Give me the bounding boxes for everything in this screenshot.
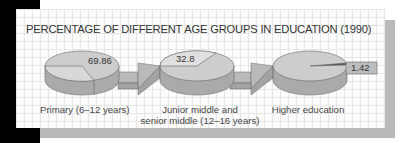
- arrow-2: [230, 63, 273, 95]
- pie-higher: [273, 51, 377, 95]
- arrow-1: [118, 63, 160, 95]
- label-higher: Higher education: [268, 104, 348, 115]
- value-primary: 69.86: [88, 55, 112, 66]
- label-primary: Primary (6–12 years): [40, 104, 128, 115]
- value-higher: 1.42: [351, 62, 370, 73]
- pie-junior: [160, 51, 234, 95]
- label-junior-line1: Junior middle and: [140, 104, 260, 115]
- label-junior: Junior middle and senior middle (12–16 y…: [140, 104, 260, 126]
- value-junior: 32.8: [176, 53, 195, 64]
- label-junior-line2: senior middle (12–16 years): [140, 115, 260, 126]
